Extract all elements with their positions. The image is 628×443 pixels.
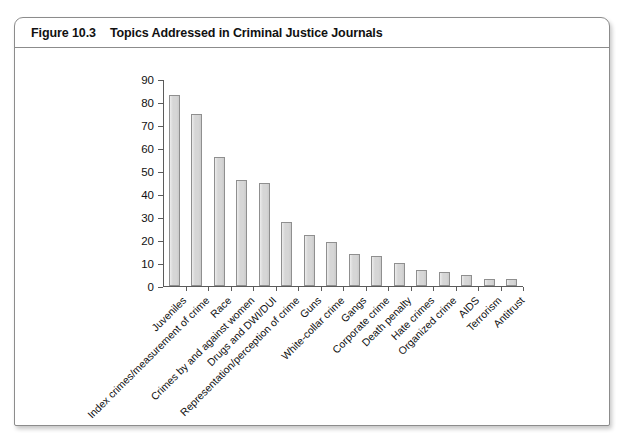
y-axis-tick-label: 80 xyxy=(141,97,154,109)
bar xyxy=(236,180,247,286)
bar xyxy=(484,279,495,286)
y-axis-tick-label: 60 xyxy=(141,143,154,155)
bar xyxy=(191,114,202,287)
x-axis-tick xyxy=(456,287,457,291)
y-axis-tick xyxy=(158,149,163,150)
y-axis-tick xyxy=(158,264,163,265)
x-axis-tick xyxy=(366,287,367,291)
figure-card: Figure 10.3 Topics Addressed in Criminal… xyxy=(14,17,610,426)
x-axis-tick xyxy=(501,287,502,291)
bar-chart: 0102030405060708090 JuvenilesIndex crime… xyxy=(163,80,523,287)
x-axis-tick xyxy=(343,287,344,291)
x-axis-tick xyxy=(411,287,412,291)
y-axis-tick-label: 70 xyxy=(141,120,154,132)
y-axis-tick xyxy=(158,172,163,173)
bar xyxy=(281,222,292,286)
x-axis-tick xyxy=(478,287,479,291)
bar xyxy=(304,235,315,286)
bar xyxy=(214,157,225,286)
bar xyxy=(326,242,337,286)
y-axis-tick-label: 40 xyxy=(141,189,154,201)
y-axis-tick-label: 90 xyxy=(141,74,154,86)
x-axis-tick xyxy=(298,287,299,291)
y-axis-tick xyxy=(158,103,163,104)
bar xyxy=(506,279,517,286)
y-axis-tick xyxy=(158,80,163,81)
bar xyxy=(416,270,427,286)
bar xyxy=(371,256,382,286)
figure-header: Figure 10.3 Topics Addressed in Criminal… xyxy=(15,18,609,48)
x-axis-tick xyxy=(321,287,322,291)
bar xyxy=(349,254,360,286)
y-axis-tick xyxy=(158,218,163,219)
y-axis-tick xyxy=(158,241,163,242)
x-axis-tick xyxy=(186,287,187,291)
x-axis-tick xyxy=(276,287,277,291)
x-axis-tick xyxy=(433,287,434,291)
bar xyxy=(259,183,270,287)
y-axis-tick-label: 50 xyxy=(141,166,154,178)
y-axis-tick xyxy=(158,195,163,196)
y-axis-tick xyxy=(158,126,163,127)
figure-title: Topics Addressed in Criminal Justice Jou… xyxy=(110,26,383,40)
bar xyxy=(394,263,405,286)
x-axis-tick xyxy=(253,287,254,291)
bar xyxy=(461,275,472,287)
x-axis-tick xyxy=(523,287,524,291)
y-axis-tick-label: 20 xyxy=(141,235,154,247)
plot-region: 0102030405060708090 JuvenilesIndex crime… xyxy=(15,48,609,425)
y-axis-line xyxy=(163,80,164,287)
x-axis-tick xyxy=(388,287,389,291)
figure-number: Figure 10.3 xyxy=(31,26,96,40)
x-axis-tick xyxy=(231,287,232,291)
bar xyxy=(169,95,180,286)
bar xyxy=(439,272,450,286)
x-axis-tick xyxy=(208,287,209,291)
y-axis-tick-label: 0 xyxy=(148,281,154,293)
y-axis-tick-label: 30 xyxy=(141,212,154,224)
y-axis-tick-label: 10 xyxy=(141,258,154,270)
y-axis-tick xyxy=(158,287,163,288)
